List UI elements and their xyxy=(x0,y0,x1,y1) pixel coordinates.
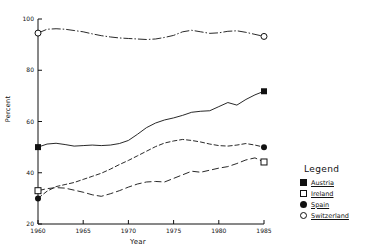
square-open-icon xyxy=(300,190,307,197)
svg-text:1975: 1975 xyxy=(166,227,181,234)
svg-text:60: 60 xyxy=(26,118,34,125)
circle-open-icon xyxy=(300,212,307,219)
legend-item-ireland[interactable]: Ireland xyxy=(300,188,374,199)
legend-item-spain[interactable]: Spain xyxy=(300,199,374,210)
y-axis-label: Percent xyxy=(4,87,12,131)
svg-text:1980: 1980 xyxy=(211,227,226,234)
svg-text:40: 40 xyxy=(26,169,34,176)
legend-title: Legend xyxy=(304,164,374,174)
legend-item-label: Spain xyxy=(311,201,329,209)
legend-item-switzerland[interactable]: Switzerland xyxy=(300,210,374,221)
legend: Legend Austria Ireland Spain Switzerland xyxy=(300,164,374,221)
svg-text:1965: 1965 xyxy=(76,227,91,234)
svg-text:1985: 1985 xyxy=(256,227,271,234)
circle-filled-icon xyxy=(300,201,307,208)
square-filled-icon xyxy=(300,179,307,186)
legend-item-label: Austria xyxy=(311,179,334,187)
chart-figure: Percent Year 204060801001960196519701975… xyxy=(0,0,376,251)
chart-plot-area: 20406080100196019651970197519801985 xyxy=(0,0,290,245)
legend-item-label: Switzerland xyxy=(311,212,349,220)
legend-item-austria[interactable]: Austria xyxy=(300,177,374,188)
svg-text:80: 80 xyxy=(26,66,34,73)
legend-item-label: Ireland xyxy=(311,190,333,198)
svg-text:1960: 1960 xyxy=(30,227,45,234)
svg-text:1970: 1970 xyxy=(121,227,136,234)
x-axis-label: Year xyxy=(130,238,146,246)
svg-text:100: 100 xyxy=(23,15,35,22)
